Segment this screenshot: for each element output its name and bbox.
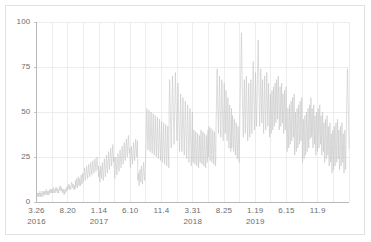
- y-tick-label: 100: [5, 17, 31, 26]
- y-tick-label: 50: [5, 107, 31, 116]
- x-tick-year-label: 2018: [173, 217, 213, 226]
- x-tick-label: 11.9: [298, 206, 338, 215]
- x-tick-year-label: 2016: [17, 217, 57, 226]
- x-tick-year-label: 2017: [79, 217, 119, 226]
- x-tick-year-label: 2019: [235, 217, 275, 226]
- y-tick-label: 0: [5, 197, 31, 206]
- y-tick-label: 25: [5, 152, 31, 161]
- y-tick-label: 75: [5, 62, 31, 71]
- chart-figure: 0255075100 3.2620168.201.1420176.1011.43…: [0, 0, 371, 242]
